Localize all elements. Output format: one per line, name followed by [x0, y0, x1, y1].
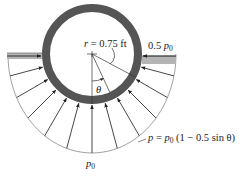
left-pressure-bar	[7, 53, 42, 59]
pressure-arrow	[136, 80, 167, 98]
pressure-arrow	[105, 103, 117, 148]
radius-callout-arc	[110, 48, 115, 64]
pressure-arrow	[141, 67, 174, 76]
pressure-arrow	[118, 98, 140, 136]
pressure-arrow	[45, 98, 67, 136]
pressure-formula-label: p = p0 (1 − 0.5 sin θ)	[147, 132, 236, 145]
theta-angle-arc	[92, 79, 103, 82]
radius-label: r = 0.75 ft	[84, 38, 127, 49]
pressure-arrow	[17, 80, 48, 98]
pressure-arrow	[128, 90, 156, 118]
pressure-arrow	[67, 103, 79, 148]
formula-leader-line	[138, 139, 146, 142]
pressure-arrow	[10, 67, 43, 76]
pipe-pressure-diagram: r = 0.75 ft 0.5 p0 θ p0 p = p0 (1 − 0.5 …	[0, 0, 252, 178]
right-pressure-bar	[142, 56, 176, 64]
radius-line	[92, 54, 135, 77]
pressure-arrow	[28, 90, 56, 118]
theta-label: θ	[96, 84, 101, 95]
bottom-pressure-label: p0	[85, 158, 95, 171]
right-pressure-label: 0.5 p0	[148, 40, 173, 53]
